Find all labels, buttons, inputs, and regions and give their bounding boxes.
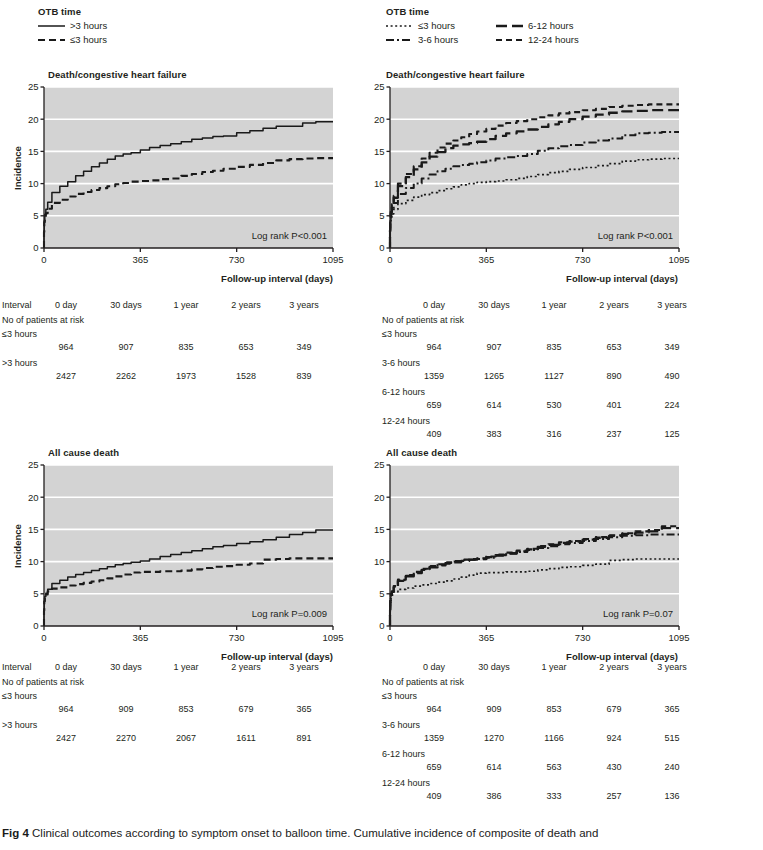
svg-text:0: 0 — [33, 620, 38, 631]
risk-value: 1359 — [408, 371, 460, 381]
svg-text:0: 0 — [41, 254, 46, 265]
svg-text:5: 5 — [379, 588, 384, 599]
risk-value: 1359 — [408, 733, 460, 743]
risk-value: 515 — [646, 733, 698, 743]
svg-text:25: 25 — [374, 81, 385, 92]
svg-text:20: 20 — [28, 114, 39, 125]
risk-value: 964 — [40, 704, 92, 714]
risk-value: 653 — [220, 342, 272, 352]
chart-bottom-left: 051015202503657301095Log rank P=0.009 — [22, 458, 362, 648]
svg-text:15: 15 — [374, 146, 385, 157]
svg-text:365: 365 — [478, 254, 494, 265]
risk-value: 257 — [588, 791, 640, 801]
svg-text:25: 25 — [28, 81, 39, 92]
column-header: 1 year — [528, 662, 580, 672]
column-header: 2 years — [588, 662, 640, 672]
column-header: 30 days — [468, 662, 520, 672]
risk-row-label: >3 hours — [2, 358, 37, 368]
svg-text:5: 5 — [33, 210, 38, 221]
risk-value: 1127 — [528, 371, 580, 381]
line-style-dashdot-icon — [386, 35, 413, 44]
line-style-dashed-icon — [38, 35, 65, 44]
log-rank-annotation: Log rank P=0.009 — [252, 608, 327, 619]
column-header: 2 years — [220, 662, 272, 672]
column-header: 30 days — [468, 300, 520, 310]
risk-value: 1270 — [468, 733, 520, 743]
svg-text:10: 10 — [28, 178, 39, 189]
svg-text:365: 365 — [132, 632, 148, 643]
legend-item-gt3h: >3 hours — [38, 20, 107, 31]
risk-value: 909 — [100, 704, 152, 714]
figure-caption: Fig 4 Clinical outcomes according to sym… — [2, 826, 761, 840]
legend-item-le3h: ≤3 hours — [386, 20, 496, 31]
risk-value: 964 — [408, 704, 460, 714]
column-header: 1 year — [160, 300, 212, 310]
svg-text:25: 25 — [28, 459, 39, 470]
chart-title: Death/congestive heart failure — [48, 69, 187, 80]
risk-value: 1611 — [220, 733, 272, 743]
risk-row-label: >3 hours — [2, 720, 37, 730]
svg-text:15: 15 — [374, 524, 385, 535]
column-header: 0 day — [40, 662, 92, 672]
column-header: 0 day — [408, 662, 460, 672]
risk-value: 1528 — [220, 371, 272, 381]
x-axis-label: Follow-up interval (days) — [482, 651, 678, 662]
column-header: 3 years — [278, 300, 330, 310]
x-axis-label: Follow-up interval (days) — [482, 273, 678, 284]
svg-text:5: 5 — [33, 588, 38, 599]
svg-text:20: 20 — [28, 492, 39, 503]
column-header: 1 year — [160, 662, 212, 672]
line-style-longdash-icon — [496, 21, 523, 30]
interval-header: Interval — [2, 300, 32, 310]
svg-text:1095: 1095 — [322, 254, 343, 265]
legend-label: >3 hours — [70, 20, 107, 31]
risk-row-label: 3-6 hours — [382, 720, 420, 730]
risk-table-caption: No of patients at risk — [2, 315, 84, 325]
svg-text:0: 0 — [33, 242, 38, 253]
risk-value: 490 — [646, 371, 698, 381]
legend-item-12-24h: 12-24 hours — [496, 34, 579, 45]
risk-value: 614 — [468, 762, 520, 772]
svg-text:365: 365 — [478, 632, 494, 643]
risk-value: 1166 — [528, 733, 580, 743]
line-style-dash-icon — [496, 35, 523, 44]
risk-value: 964 — [408, 342, 460, 352]
svg-text:0: 0 — [387, 632, 392, 643]
risk-value: 679 — [588, 704, 640, 714]
risk-table-bottom-right: 0 day30 days1 year2 years3 yearsNo of pa… — [382, 662, 763, 802]
chart-top-left: 051015202503657301095Log rank P<0.001 — [22, 80, 362, 270]
legend-label: 3-6 hours — [418, 34, 458, 45]
risk-value: 365 — [646, 704, 698, 714]
log-rank-annotation: Log rank P<0.001 — [252, 230, 327, 241]
svg-text:10: 10 — [374, 556, 385, 567]
legend-title: OTB time — [386, 6, 579, 17]
risk-value: 430 — [588, 762, 640, 772]
svg-text:730: 730 — [229, 254, 245, 265]
legend-item-3-6h: 3-6 hours — [386, 34, 496, 45]
svg-text:0: 0 — [387, 254, 392, 265]
risk-value: 365 — [278, 704, 330, 714]
risk-row-label: 12-24 hours — [382, 416, 430, 426]
x-axis-label: Follow-up interval (days) — [140, 651, 333, 662]
svg-text:1095: 1095 — [322, 632, 343, 643]
column-header: 1 year — [528, 300, 580, 310]
risk-value: 409 — [408, 429, 460, 439]
chart-title: All cause death — [48, 447, 119, 458]
legend-item-6-12h: 6-12 hours — [496, 20, 573, 31]
risk-value: 653 — [588, 342, 640, 352]
svg-text:1095: 1095 — [668, 254, 689, 265]
chart-title: Death/congestive heart failure — [386, 69, 525, 80]
risk-value: 349 — [646, 342, 698, 352]
risk-value: 530 — [528, 400, 580, 410]
risk-value: 2270 — [100, 733, 152, 743]
interval-header: Interval — [2, 662, 32, 672]
risk-value: 2427 — [40, 371, 92, 381]
svg-text:10: 10 — [28, 556, 39, 567]
risk-value: 659 — [408, 400, 460, 410]
svg-text:730: 730 — [229, 632, 245, 643]
risk-value: 386 — [468, 791, 520, 801]
risk-value: 224 — [646, 400, 698, 410]
line-style-dotted-icon — [386, 21, 413, 30]
risk-value: 401 — [588, 400, 640, 410]
column-header: 3 years — [646, 662, 698, 672]
